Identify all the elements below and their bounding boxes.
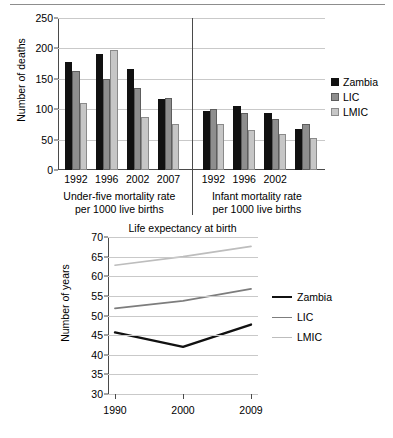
panel-caption-line-2: per 1000 live births [63,203,175,216]
bar [72,71,79,170]
gridline [108,316,258,317]
gridline [108,276,258,277]
x-tick-label: 1990 [103,404,126,416]
y-tick-mark [104,256,108,257]
bar-chart-y-axis-label: Number of deaths [15,15,27,145]
y-tick-label: 40 [91,349,103,361]
y-tick-label: 150 [35,73,53,85]
line-chart-legend: Zambia LIC LMIC [272,287,362,347]
line-chart-title: Life expectancy at birth [95,222,270,234]
x-tick-label: 2002 [263,173,286,185]
bar [264,113,271,170]
line-legend-item-lic: LIC [272,307,362,327]
y-tick-mark [104,276,108,277]
bar [272,119,279,170]
panel-caption-line-1: Under-five mortality rate [63,190,175,203]
bar [103,79,110,170]
x-tick-mark [251,394,252,399]
x-tick-mark [115,394,116,399]
bar [203,111,210,170]
y-tick-label: 100 [35,103,53,115]
bar [310,138,317,170]
gridline [108,237,258,238]
legend-label-zambia: Zambia [343,76,378,88]
bar [165,98,172,170]
bar [127,69,134,170]
bar [96,54,103,170]
figure-page: Number of deaths 050100150200250 1992199… [0,0,393,438]
legend-item-lmic: LMIC [331,104,391,119]
panel-caption-line-2: per 1000 live births [212,203,302,216]
x-tick-label: 1992 [64,173,87,185]
y-tick-label: 30 [91,388,103,400]
legend-item-zambia: Zambia [331,74,391,89]
x-tick-label: 1996 [95,173,118,185]
bar-chart: Number of deaths 050100150200250 1992199… [0,12,393,217]
gridline [108,257,258,258]
y-tick-label: 55 [91,290,103,302]
line-legend-label-lic: LIC [297,311,313,323]
x-tick-label: 2009 [239,404,262,416]
bar [141,117,148,171]
line-series-lic [115,289,251,309]
bar [172,124,179,170]
legend-swatch-lmic [331,108,339,116]
legend-label-lic: LIC [343,91,359,103]
top-divider-rule [10,4,385,5]
line-chart-plot-area: 303540455055606570 199020002009 [108,237,258,394]
x-tick-label: 2000 [171,404,194,416]
gridline [108,374,258,375]
panel-divider-line [192,18,193,215]
x-tick-mark [183,394,184,399]
y-tick-label: 45 [91,329,103,341]
bar [110,50,117,170]
y-tick-label: 0 [47,164,53,176]
bar [158,99,165,170]
y-tick-mark [104,237,108,238]
line-chart: Life expectancy at birth Number of years… [0,222,393,438]
y-tick-label: 200 [35,42,53,54]
panel-caption: Under-five mortality rateper 1000 live b… [63,190,175,215]
line-legend-swatch-lmic [272,337,292,338]
bar-chart-legend: Zambia LIC LMIC [331,74,391,119]
line-legend-item-lmic: LMIC [272,327,362,347]
y-tick-mark [104,354,108,355]
y-tick-mark [104,295,108,296]
line-legend-item-zambia: Zambia [272,287,362,307]
x-tick-label: 1992 [202,173,225,185]
bar [279,134,286,170]
bar [80,103,87,170]
bar [302,124,309,170]
line-legend-label-zambia: Zambia [297,291,332,303]
legend-swatch-lic [331,93,339,101]
y-tick-mark [104,374,108,375]
y-tick-label: 50 [91,310,103,322]
y-tick-label: 65 [91,251,103,263]
gridline [108,296,258,297]
y-tick-label: 60 [91,270,103,282]
bar-chart-plot-area: 050100150200250 [58,18,325,170]
line-chart-y-axis-label: Number of years [59,238,71,368]
legend-swatch-zambia [331,78,339,86]
y-tick-label: 250 [35,12,53,24]
panel-caption: Infant mortality rateper 1000 live birth… [212,190,302,215]
bar [210,109,217,170]
line-legend-label-lmic: LMIC [297,331,322,343]
bar [241,113,248,170]
x-tick-label: 2002 [126,173,149,185]
gridline [108,355,258,356]
x-tick-label: 2007 [157,173,180,185]
y-tick-label: 50 [41,134,53,146]
legend-item-lic: LIC [331,89,391,104]
y-tick-label: 35 [91,368,103,380]
legend-label-lmic: LMIC [343,106,368,118]
line-legend-swatch-zambia [272,296,292,298]
bar [217,124,224,170]
y-tick-mark [104,394,108,395]
panel-caption-line-1: Infant mortality rate [212,190,302,203]
bar [233,106,240,170]
bar [295,129,302,170]
bar [248,130,255,170]
gridline [108,335,258,336]
y-tick-mark [104,315,108,316]
